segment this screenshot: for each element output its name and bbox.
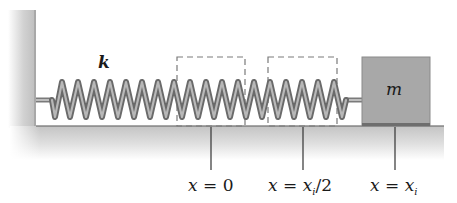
- position-eq: =: [278, 175, 303, 195]
- floor: [10, 126, 444, 160]
- position-var: x: [370, 175, 380, 195]
- spring-constant-label: k: [98, 52, 110, 72]
- mass-label: m: [386, 79, 402, 99]
- position-label-half: x = xi/2: [268, 175, 332, 195]
- position-value: 0: [223, 175, 234, 195]
- spring-mass-diagram: k m x = 0 x = xi/2 x = xi: [0, 0, 457, 203]
- wall: [8, 10, 36, 128]
- diagram-svg: [0, 0, 457, 203]
- position-label-zero: x = 0: [188, 175, 233, 195]
- position-var: x: [268, 175, 278, 195]
- position-var: x: [188, 175, 198, 195]
- position-value-main: x: [405, 175, 415, 195]
- position-value-sub: i: [312, 186, 315, 197]
- position-value-suffix: /2: [315, 175, 332, 195]
- position-value-sub: i: [414, 186, 417, 197]
- position-eq: =: [380, 175, 405, 195]
- position-value-main: x: [303, 175, 313, 195]
- position-eq: =: [198, 175, 223, 195]
- position-label-full: x = xi: [370, 175, 417, 195]
